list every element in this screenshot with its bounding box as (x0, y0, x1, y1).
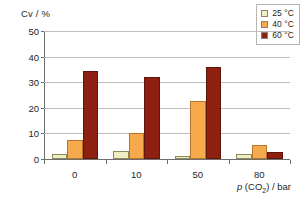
bar[interactable] (267, 152, 283, 159)
bar-group (229, 31, 291, 159)
y-tick-label: 0 (34, 154, 39, 165)
y-tick-label: 10 (28, 128, 39, 139)
y-tick-label: 30 (28, 77, 39, 88)
x-tick-label: 80 (254, 169, 265, 180)
y-tick-label: 40 (28, 51, 39, 62)
bar[interactable] (175, 156, 191, 159)
legend-label-25c: 25 °C (272, 8, 294, 19)
x-tick-label: 0 (72, 169, 77, 180)
bar[interactable] (52, 154, 68, 159)
x-tick-mark (106, 160, 107, 164)
bar[interactable] (252, 145, 268, 159)
x-tick-mark (229, 160, 230, 164)
x-tick-mark (167, 160, 168, 164)
x-tick-mark (44, 160, 45, 164)
legend-item[interactable]: 40 °C (261, 19, 294, 30)
bar[interactable] (83, 71, 99, 159)
y-tick-label: 50 (28, 26, 39, 37)
bar[interactable] (129, 133, 145, 159)
plot-area: 010203040500105080 (44, 31, 290, 160)
bar-chart: Cv / % 25 °C 40 °C 60 °C 010203040500105… (0, 0, 303, 203)
x-axis-title-open: (CO (242, 181, 262, 192)
bar[interactable] (206, 67, 222, 159)
bar-group (106, 31, 168, 159)
bar[interactable] (113, 151, 129, 159)
x-axis-title-suffix: ) / bar (266, 181, 291, 192)
bar[interactable] (67, 140, 83, 159)
legend-swatch-25c (261, 10, 268, 17)
bar-group (167, 31, 229, 159)
x-tick-label: 50 (192, 169, 203, 180)
x-tick-label: 10 (131, 169, 142, 180)
x-axis-title: p (CO2) / bar (237, 181, 291, 194)
bar-group (44, 31, 106, 159)
bar[interactable] (190, 101, 206, 159)
bar[interactable] (236, 154, 252, 159)
y-axis-title: Cv / % (21, 8, 50, 19)
y-tick-label: 20 (28, 102, 39, 113)
legend-item[interactable]: 25 °C (261, 8, 294, 19)
legend-label-40c: 40 °C (272, 19, 294, 30)
bar[interactable] (144, 77, 160, 159)
legend-swatch-40c (261, 21, 268, 28)
x-tick-mark (290, 160, 291, 164)
